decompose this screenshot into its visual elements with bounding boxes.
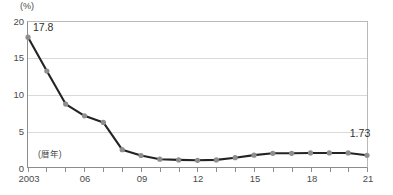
x-tick-2016 (273, 168, 274, 172)
x-tick-label-2003: 2003 (18, 174, 39, 184)
x-tick-2014 (235, 168, 236, 172)
x-tick-2015 (254, 168, 255, 172)
y-tick-label-15: 15 (0, 53, 24, 63)
x-tick-label-2006: 06 (80, 174, 91, 184)
x-tick-2008 (122, 168, 123, 172)
plot-area (27, 21, 368, 168)
x-tick-2020 (348, 168, 349, 172)
gridline-10 (28, 95, 367, 96)
x-tick-label-2009: 09 (137, 174, 148, 184)
y-tick-label-10: 10 (0, 90, 24, 100)
line-chart: (%) 20 15 10 5 0 (暦年) 2003 06 09 12 15 1… (0, 0, 393, 195)
x-tick-label-2015: 15 (250, 174, 261, 184)
x-tick-2021 (367, 168, 368, 172)
y-tick-label-5: 5 (0, 127, 24, 137)
x-tick-2010 (160, 168, 161, 172)
x-tick-label-2021: 21 (363, 174, 374, 184)
x-tick-2003 (28, 168, 29, 172)
x-axis-caption: (暦年) (38, 147, 62, 159)
x-tick-label-2018: 18 (307, 174, 318, 184)
y-tick-label-20: 20 (0, 17, 24, 27)
data-label-first: 17.8 (33, 22, 53, 33)
data-label-last: 1.73 (350, 128, 370, 139)
x-tick-2007 (103, 168, 104, 172)
gridline-5 (28, 132, 367, 133)
x-tick-2006 (84, 168, 85, 172)
x-tick-2004 (46, 168, 47, 172)
x-tick-2017 (292, 168, 293, 172)
x-tick-2018 (311, 168, 312, 172)
x-tick-2013 (216, 168, 217, 172)
x-tick-2012 (197, 168, 198, 172)
x-tick-2005 (65, 168, 66, 172)
clipped-footnote (12, 187, 202, 193)
x-tick-2009 (141, 168, 142, 172)
x-tick-label-2012: 12 (193, 174, 204, 184)
y-axis-unit-label: (%) (20, 1, 34, 11)
gridline-15 (28, 58, 367, 59)
x-tick-2011 (179, 168, 180, 172)
x-tick-2019 (330, 168, 331, 172)
